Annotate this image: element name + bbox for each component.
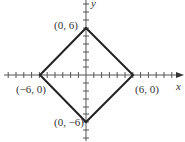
y-axis-label: y — [90, 0, 96, 9]
vertex-label-bottom: (0, −6) — [54, 116, 84, 129]
coordinate-diagram: y x (0, 6) (6, 0) (0, −6) (−6, 0) — [0, 0, 185, 142]
x-axis-arrow-icon — [176, 72, 184, 78]
vertex-label-right: (6, 0) — [135, 83, 159, 96]
vertex-label-left: (−6, 0) — [16, 83, 46, 96]
x-axis-label: x — [175, 80, 181, 92]
vertex-label-top: (0, 6) — [54, 19, 78, 32]
